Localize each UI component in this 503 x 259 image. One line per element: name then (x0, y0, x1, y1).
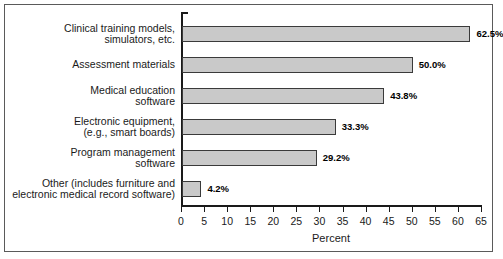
x-axis-line (181, 205, 482, 207)
category-label: Other (includes furniture and electronic… (6, 178, 175, 201)
x-axis-tick (273, 207, 274, 212)
bar-value-label: 50.0% (419, 57, 446, 73)
bar-value-label: 4.2% (207, 181, 229, 197)
category-label: Assessment materials (6, 59, 175, 71)
x-axis-tick (296, 207, 297, 212)
x-axis-tick (458, 207, 459, 212)
bar-value-label: 33.3% (342, 119, 369, 135)
bar-value-label: 43.8% (390, 88, 417, 104)
x-axis-tick (481, 207, 482, 212)
bar (182, 88, 384, 104)
x-axis-tick-label: 65 (466, 215, 496, 227)
x-axis-tick (181, 207, 182, 212)
category-labels-column: Clinical training models, simulators, et… (6, 12, 178, 205)
bar (182, 181, 201, 197)
x-axis-title: Percent (181, 232, 481, 244)
bar (182, 150, 317, 166)
bar-value-label: 29.2% (323, 150, 350, 166)
bar (182, 119, 336, 135)
x-axis-tick (204, 207, 205, 212)
bar-value-label: 62.5% (476, 26, 503, 42)
category-label: Clinical training models, simulators, et… (6, 23, 175, 46)
plot-area: 62.5%50.0%43.8%33.3%29.2%4.2% 0510152025… (181, 12, 481, 205)
x-axis-tick (366, 207, 367, 212)
bar (182, 26, 470, 42)
x-axis-tick (343, 207, 344, 212)
x-axis-tick (389, 207, 390, 212)
category-label: Program management software (6, 147, 175, 170)
x-axis-tick (412, 207, 413, 212)
x-axis-tick (319, 207, 320, 212)
x-axis-tick (227, 207, 228, 212)
x-axis-tick (435, 207, 436, 212)
y-axis-top-cap-tick (181, 12, 188, 14)
category-label: Electronic equipment, (e.g., smart board… (6, 116, 175, 139)
bar (182, 57, 413, 73)
x-axis-tick (250, 207, 251, 212)
category-label: Medical education software (6, 85, 175, 108)
